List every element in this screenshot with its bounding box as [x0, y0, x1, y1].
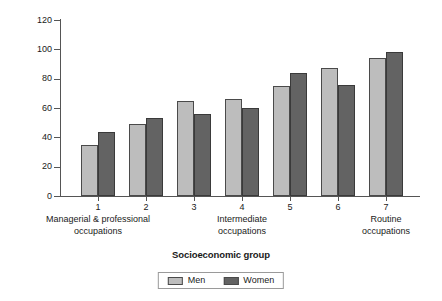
- occupation-group-label: Routineoccupations: [306, 214, 442, 237]
- x-axis-tick-label: 3: [179, 202, 209, 213]
- legend-swatch-women: [223, 277, 238, 285]
- y-axis-tick-label: 80: [8, 74, 52, 83]
- x-axis-tick: [146, 196, 147, 201]
- bar-group: [225, 20, 259, 196]
- x-axis-tick: [194, 196, 195, 201]
- bar-women: [290, 73, 307, 196]
- occupation-group-label-line1: Routine: [306, 214, 442, 226]
- bar-group: [273, 20, 307, 196]
- bar-men: [321, 68, 338, 196]
- x-axis-tick-label: 6: [323, 202, 353, 213]
- y-axis-tick: [54, 167, 60, 168]
- bar-group: [321, 20, 355, 196]
- bar-group: [177, 20, 211, 196]
- x-axis-tick: [242, 196, 243, 201]
- x-axis-tick: [386, 196, 387, 201]
- bar-men: [129, 124, 146, 196]
- bar-men: [81, 145, 98, 196]
- y-axis-tick: [54, 137, 60, 138]
- bar-group: [81, 20, 115, 196]
- bar-women: [338, 85, 355, 196]
- bar-women: [242, 108, 259, 196]
- bar-men: [369, 58, 386, 196]
- y-axis-tick: [54, 20, 60, 21]
- bar-women: [98, 132, 115, 196]
- legend-entry-men: Men: [168, 276, 206, 285]
- occupation-group-label: Intermediateoccupations: [162, 214, 322, 237]
- legend-label-women: Women: [243, 276, 274, 285]
- bar-women: [386, 52, 403, 196]
- x-axis-tick-label: 5: [275, 202, 305, 213]
- x-axis-tick-label: 2: [131, 202, 161, 213]
- bar-men: [177, 101, 194, 196]
- y-axis-tick-label: 40: [8, 133, 52, 142]
- bar-group: [129, 20, 163, 196]
- x-axis-tick: [338, 196, 339, 201]
- bar-chart-figure: Age-standardised rate per 1000 020406080…: [0, 0, 442, 301]
- legend-label-men: Men: [188, 276, 206, 285]
- occupation-group-label-line1: Intermediate: [162, 214, 322, 226]
- x-axis-tick-label: 1: [83, 202, 113, 213]
- y-axis-tick: [54, 196, 60, 197]
- x-axis-tick-label: 7: [371, 202, 401, 213]
- occupation-group-label-line2: occupations: [306, 226, 442, 238]
- y-axis-tick-label: 0: [8, 192, 52, 201]
- y-axis-tick: [54, 79, 60, 80]
- bar-men: [273, 86, 290, 196]
- occupation-group-label-line1: Managerial & professional: [18, 214, 178, 226]
- bar-men: [225, 99, 242, 196]
- x-axis-line: [60, 196, 420, 197]
- bar-women: [146, 118, 163, 196]
- y-axis-tick-label: 120: [8, 16, 52, 25]
- x-axis-title: Socioeconomic group: [0, 249, 442, 260]
- y-axis-tick-label: 100: [8, 45, 52, 54]
- bar-women: [194, 114, 211, 196]
- bar-group: [369, 20, 403, 196]
- y-axis-tick-label: 20: [8, 162, 52, 171]
- occupation-group-label-line2: occupations: [162, 226, 322, 238]
- legend-entry-women: Women: [223, 276, 274, 285]
- occupation-group-label: Managerial & professionaloccupations: [18, 214, 178, 237]
- y-axis-tick: [54, 49, 60, 50]
- x-axis-tick-label: 4: [227, 202, 257, 213]
- y-axis-tick-label: 60: [8, 104, 52, 113]
- x-axis-tick: [98, 196, 99, 201]
- y-axis-tick: [54, 108, 60, 109]
- occupation-group-label-line2: occupations: [18, 226, 178, 238]
- legend: Men Women: [158, 272, 284, 289]
- x-axis-tick: [290, 196, 291, 201]
- legend-swatch-men: [168, 277, 183, 285]
